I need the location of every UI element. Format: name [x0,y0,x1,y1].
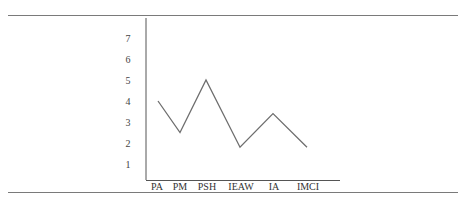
y-tick-label: 3 [126,117,131,128]
x-tick-label: IA [269,181,280,192]
x-tick-label: PA [151,181,164,192]
x-tick-label: IEAW [228,181,254,192]
x-tick-label: PM [173,181,188,192]
y-tick-label: 4 [126,96,131,107]
data-line [158,80,307,147]
y-tick-labels: 1234567 [126,33,131,170]
line-chart: 1234567 PAPMPSHIEAWIAIMCI [0,0,470,203]
y-tick-label: 7 [126,33,131,44]
x-tick-label: PSH [198,181,216,192]
x-tick-labels: PAPMPSHIEAWIAIMCI [151,181,319,192]
y-tick-label: 6 [126,54,131,65]
x-tick-label: IMCI [297,181,319,192]
y-tick-label: 1 [126,159,131,170]
y-tick-label: 2 [126,138,131,149]
y-tick-label: 5 [126,75,131,86]
